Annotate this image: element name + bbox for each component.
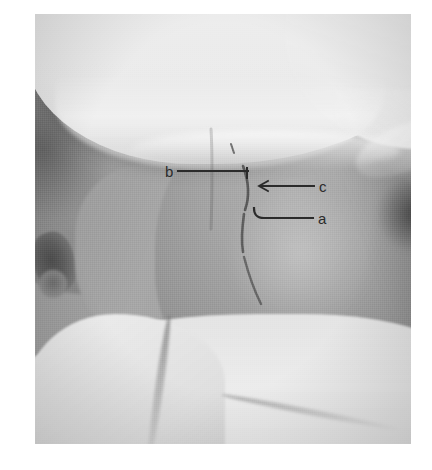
skin-marking-ink [35,14,411,444]
annotation-label-c: c [319,179,327,194]
annotation-label-a: a [318,211,326,226]
clinical-photograph [35,14,411,444]
figure-canvas: b c a [0,0,432,470]
annotation-label-b: b [165,164,173,179]
